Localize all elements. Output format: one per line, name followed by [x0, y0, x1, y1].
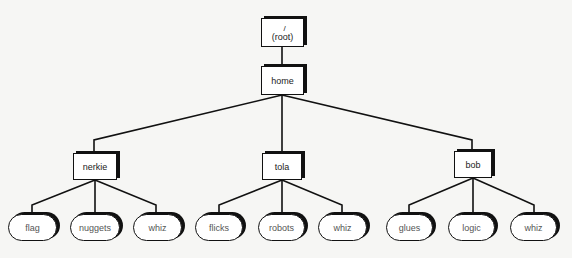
- file-node-nuggets: nuggets: [70, 214, 120, 241]
- user-directory-node-nerkie: nerkie: [73, 153, 117, 180]
- file-label: robots: [269, 223, 294, 233]
- file-label: nuggets: [79, 223, 111, 233]
- file-label: glues: [399, 223, 421, 233]
- file-node-flag: flag: [8, 214, 57, 241]
- user-directory-node-bob: bob: [454, 151, 492, 178]
- file-node-glues: glues: [386, 214, 433, 241]
- home-directory-node: home: [261, 66, 304, 95]
- file-label: whiz: [524, 223, 542, 233]
- home-label: home: [271, 76, 294, 86]
- file-label: flicks: [209, 223, 229, 233]
- file-label: whiz: [148, 223, 166, 233]
- file-node-flicks: flicks: [195, 214, 243, 241]
- file-node-whiz: whiz: [133, 214, 182, 241]
- file-node-robots: robots: [258, 214, 305, 241]
- file-label: whiz: [333, 223, 351, 233]
- root-directory-node: / (root): [261, 18, 304, 47]
- directory-tree-diagram: / (root) home nerkie tola bob flag nugge…: [0, 0, 572, 258]
- user-label: tola: [275, 162, 290, 172]
- root-label: (root): [272, 33, 294, 41]
- file-node-whiz: whiz: [318, 214, 367, 241]
- user-label: nerkie: [83, 162, 108, 172]
- file-node-whiz: whiz: [510, 214, 557, 241]
- file-label: logic: [462, 223, 481, 233]
- file-label: flag: [25, 223, 40, 233]
- file-node-logic: logic: [448, 214, 495, 241]
- user-label: bob: [465, 160, 480, 170]
- user-directory-node-tola: tola: [262, 153, 302, 180]
